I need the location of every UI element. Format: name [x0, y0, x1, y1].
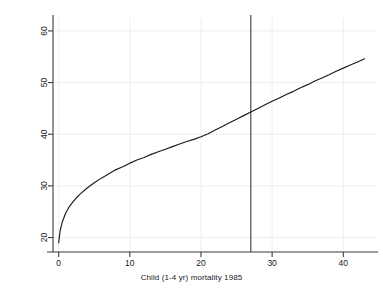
tick-labels: 2030405060010203040: [39, 26, 348, 268]
svg-text:40: 40: [39, 129, 49, 139]
chart-figure: 2030405060010203040 birth = f(childmort …: [0, 0, 383, 300]
svg-text:60: 60: [39, 26, 49, 36]
tick-marks: [48, 31, 343, 257]
axis-lines: [47, 15, 378, 252]
data-curve: [59, 59, 365, 243]
gridlines: [53, 18, 376, 252]
x-axis-title: Child (1-4 yr) mortality 1985: [141, 273, 243, 282]
svg-text:50: 50: [39, 78, 49, 88]
x-axis-title-wrap: Child (1-4 yr) mortality 1985: [0, 266, 383, 284]
chart-plot-area: 2030405060010203040: [0, 0, 383, 300]
svg-text:30: 30: [39, 181, 49, 191]
svg-text:20: 20: [39, 233, 49, 243]
